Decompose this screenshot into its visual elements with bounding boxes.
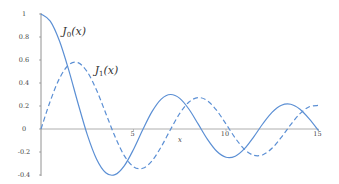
y-tick-label: 0.6 — [19, 56, 29, 64]
x-tick-label: 10 — [221, 130, 229, 138]
y-tick-label: 0 — [22, 125, 26, 133]
y-tick-label: 0.8 — [19, 33, 29, 41]
y-tick-label: 0.2 — [19, 102, 29, 110]
y-ticks: 10.80.60.40.20-0.2-0.4 — [18, 10, 41, 179]
x-ticks: 51015 — [130, 129, 321, 138]
y-tick-label: -0.2 — [18, 148, 31, 156]
y-tick-label: 1 — [22, 10, 26, 18]
y-tick-label: -0.4 — [18, 171, 31, 179]
x-tick-label: 15 — [313, 130, 321, 138]
series-label-0: J0(x) — [60, 25, 86, 40]
bessel-chart: 10.80.60.40.20-0.2-0.4 51015 x J0(x)J1(x… — [0, 0, 339, 184]
x-tick-label: 5 — [130, 130, 134, 138]
series-line-0 — [41, 14, 319, 175]
series-line-1 — [41, 62, 319, 169]
series-group — [41, 14, 319, 175]
series-label-1: J1(x) — [93, 64, 119, 79]
x-axis-label: x — [178, 136, 182, 144]
y-tick-label: 0.4 — [19, 79, 29, 87]
